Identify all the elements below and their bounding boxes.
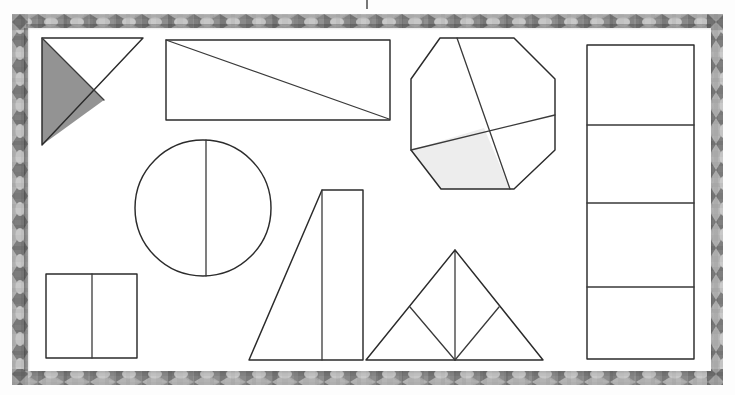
shape-rectangle-diagonal: [166, 40, 390, 120]
circle-outline: [135, 140, 271, 276]
rectangle-diagonal-divider: [166, 40, 389, 119]
shape-quadrilateral-split: [249, 190, 363, 360]
geometric-shapes-drawing: [0, 0, 735, 395]
shape-triangle-four-parts: [366, 250, 543, 360]
tall-rectangle-outline: [587, 45, 694, 359]
shape-circle-halves: [135, 140, 271, 276]
triangle-midsegment-left: [410, 307, 455, 360]
shape-octagon-quarters: [411, 38, 555, 189]
octagon-shaded-part: [411, 128, 510, 189]
quadrilateral-outline: [249, 190, 363, 360]
scanned-worksheet-page: [0, 0, 735, 395]
shape-shaded-right-triangle: [42, 38, 143, 145]
shape-square-halves: [46, 274, 137, 358]
shape-rectangle-four-bands: [587, 45, 694, 359]
triangle-midsegment-right: [455, 307, 499, 360]
